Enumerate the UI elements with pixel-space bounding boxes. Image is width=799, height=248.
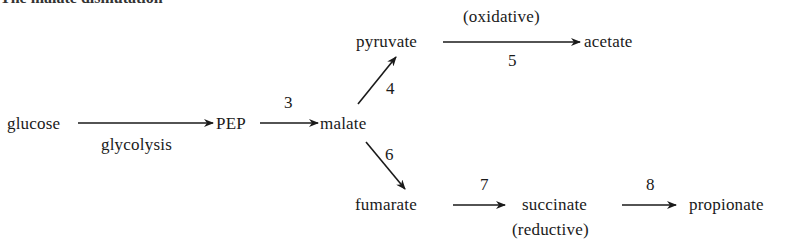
label-step-6: 6 [385, 146, 394, 163]
node-glucose: glucose [7, 115, 60, 132]
node-acetate: acetate [584, 33, 633, 50]
node-pyruvate: pyruvate [356, 33, 417, 50]
node-fumarate: fumarate [355, 196, 417, 213]
label-reductive: (reductive) [512, 221, 589, 238]
label-step-3: 3 [284, 94, 293, 111]
label-step-5: 5 [508, 52, 517, 69]
label-step-4: 4 [386, 80, 395, 97]
label-step-7: 7 [480, 176, 489, 193]
node-pep: PEP [216, 115, 246, 132]
node-propionate: propionate [689, 196, 764, 213]
label-oxidative: (oxidative) [463, 8, 540, 25]
label-step-8: 8 [646, 176, 655, 193]
label-glycolysis: glycolysis [101, 136, 172, 153]
node-succinate: succinate [522, 196, 587, 213]
node-malate: malate [320, 115, 367, 132]
